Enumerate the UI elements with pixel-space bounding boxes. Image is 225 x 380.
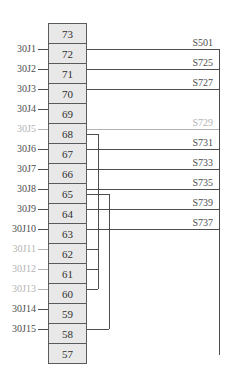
signal-wire <box>87 149 219 150</box>
pin-number: 64 <box>49 204 86 224</box>
pin-number: 73 <box>49 24 86 44</box>
right-signal-label: S729 <box>130 117 213 128</box>
right-signal-label: S737 <box>130 217 213 228</box>
signal-wire <box>87 209 219 210</box>
pin-box: 69 <box>48 103 87 124</box>
pin-box: 72 <box>48 43 87 64</box>
left-pin-label: 30J8 <box>0 183 36 195</box>
pin-number: 60 <box>49 284 86 304</box>
left-pin-label: 30J13 <box>0 283 36 295</box>
pin-dash <box>38 149 48 150</box>
pin-box: 64 <box>48 203 87 224</box>
pin-box: 65 <box>48 183 87 204</box>
right-signal-label: S739 <box>130 197 213 208</box>
net-vertical <box>98 134 99 289</box>
right-signal-label: S733 <box>130 157 213 168</box>
left-pin-label: 30J5 <box>0 123 36 135</box>
pin-dash <box>38 189 48 190</box>
signal-wire <box>87 229 219 230</box>
pin-dash <box>38 269 48 270</box>
left-pin-label: 30J6 <box>0 143 36 155</box>
right-signal-label: S501 <box>130 37 213 48</box>
pin-box: 62 <box>48 243 87 264</box>
signal-wire <box>87 189 219 190</box>
pin-box: 71 <box>48 63 87 84</box>
left-pin-label: 30J12 <box>0 263 36 275</box>
pin-dash <box>38 309 48 310</box>
net-stub <box>87 289 98 290</box>
right-signal-label: S725 <box>130 57 213 68</box>
left-pin-label: 30J14 <box>0 303 36 315</box>
net-stub <box>87 134 98 135</box>
pin-number: 65 <box>49 184 86 204</box>
left-pin-label: 30J15 <box>0 323 36 335</box>
pin-number: 63 <box>49 224 86 244</box>
pin-number: 68 <box>49 124 86 144</box>
pin-dash <box>38 109 48 110</box>
signal-wire <box>87 69 219 70</box>
pin-box: 66 <box>48 163 87 184</box>
right-signal-label: S727 <box>130 77 213 88</box>
wiring-diagram: 737230J1S5017130J2S7257030J3S7276930J468… <box>0 0 225 380</box>
pin-box: 57 <box>48 343 87 364</box>
net-stub <box>87 249 98 250</box>
signal-wire <box>87 169 219 170</box>
left-pin-label: 30J3 <box>0 83 36 95</box>
left-pin-label: 30J9 <box>0 203 36 215</box>
pin-box: 67 <box>48 143 87 164</box>
pin-number: 58 <box>49 324 86 344</box>
net-stub <box>87 194 109 195</box>
pin-number: 62 <box>49 244 86 264</box>
pin-number: 72 <box>49 44 86 64</box>
pin-box: 58 <box>48 323 87 344</box>
pin-number: 57 <box>49 344 86 364</box>
right-signal-label: S735 <box>130 177 213 188</box>
pin-box: 59 <box>48 303 87 324</box>
left-pin-label: 30J11 <box>0 243 36 255</box>
pin-box: 73 <box>48 23 87 44</box>
pin-number: 61 <box>49 264 86 284</box>
pin-number: 69 <box>49 104 86 124</box>
pin-number: 66 <box>49 164 86 184</box>
left-pin-label: 30J10 <box>0 223 36 235</box>
pin-dash <box>38 129 48 130</box>
pin-dash <box>38 69 48 70</box>
signal-wire <box>87 49 219 50</box>
pin-dash <box>38 49 48 50</box>
left-pin-label: 30J4 <box>0 103 36 115</box>
right-signal-label: S731 <box>130 137 213 148</box>
left-pin-label: 30J2 <box>0 63 36 75</box>
pin-dash <box>38 169 48 170</box>
pin-box: 61 <box>48 263 87 284</box>
net-stub <box>87 269 98 270</box>
pin-box: 60 <box>48 283 87 304</box>
pin-number: 59 <box>49 304 86 324</box>
left-pin-label: 30J7 <box>0 163 36 175</box>
signal-bus-line <box>219 49 220 355</box>
pin-dash <box>38 229 48 230</box>
pin-dash <box>38 289 48 290</box>
signal-wire <box>87 129 219 130</box>
pin-number: 71 <box>49 64 86 84</box>
pin-dash <box>38 209 48 210</box>
pin-number: 67 <box>49 144 86 164</box>
signal-wire <box>87 89 219 90</box>
net-vertical <box>109 194 110 329</box>
pin-box: 70 <box>48 83 87 104</box>
pin-dash <box>38 329 48 330</box>
pin-dash <box>38 89 48 90</box>
pin-box: 68 <box>48 123 87 144</box>
net-stub <box>87 329 109 330</box>
left-pin-label: 30J1 <box>0 43 36 55</box>
pin-dash <box>38 249 48 250</box>
pin-number: 70 <box>49 84 86 104</box>
pin-box: 63 <box>48 223 87 244</box>
